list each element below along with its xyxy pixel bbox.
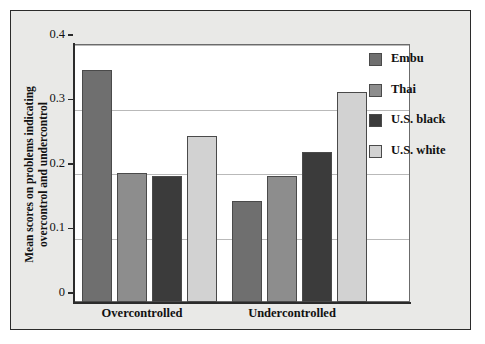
bar-u-s-white-undercontrolled	[337, 92, 367, 302]
legend: EmbuThaiU.S. blackU.S. white	[369, 51, 469, 173]
y-axis-tick-mark	[68, 34, 73, 36]
legend-swatch-icon	[369, 84, 382, 97]
chart-panel: Mean scores on problems indicating overc…	[10, 10, 471, 330]
y-axis-tick-label: 0.1	[29, 221, 65, 234]
x-axis-label-undercontrolled: Undercontrolled	[197, 306, 387, 321]
y-axis-tick-label: 0.2	[29, 157, 65, 170]
legend-item: Thai	[369, 82, 469, 113]
figure: Mean scores on problems indicating overc…	[0, 0, 485, 344]
legend-item: U.S. white	[369, 143, 469, 174]
y-axis-tick-label: 0.4	[29, 28, 65, 41]
legend-item: Embu	[369, 51, 469, 82]
legend-label: Embu	[391, 51, 424, 66]
legend-swatch-icon	[369, 145, 382, 158]
bar-embu-overcontrolled	[82, 70, 112, 302]
y-axis-tick-label: 0.3	[29, 92, 65, 105]
y-axis-tick-labels: 00.10.20.30.4	[29, 11, 65, 344]
bar-u-s-black-undercontrolled	[302, 152, 332, 302]
legend-swatch-icon	[369, 114, 382, 127]
bar-thai-overcontrolled	[117, 173, 147, 302]
bar-u-s-black-overcontrolled	[152, 176, 182, 302]
legend-label: U.S. black	[391, 112, 446, 127]
legend-label: U.S. white	[391, 143, 446, 158]
x-axis-line	[73, 302, 411, 304]
bar-thai-undercontrolled	[267, 176, 297, 302]
bar-embu-undercontrolled	[232, 201, 262, 302]
bar-series-container	[74, 44, 410, 302]
legend-item: U.S. black	[369, 112, 469, 143]
legend-swatch-icon	[369, 53, 382, 66]
y-axis-tick-label: 0	[29, 286, 65, 299]
legend-label: Thai	[391, 82, 416, 97]
bar-u-s-white-overcontrolled	[187, 136, 217, 302]
